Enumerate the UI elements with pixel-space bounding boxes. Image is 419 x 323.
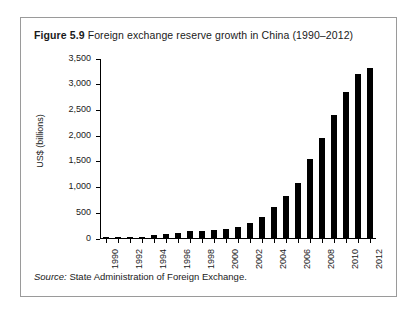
x-axis-tick xyxy=(298,239,299,243)
bar xyxy=(163,234,169,238)
x-axis-tick-label: 1990 xyxy=(110,249,120,269)
y-axis-tick: 2,000 xyxy=(96,136,100,137)
x-axis-tick-label: 2010 xyxy=(350,249,360,269)
y-axis-tick: 2,500 xyxy=(96,110,100,111)
bar xyxy=(259,217,265,238)
x-axis-tick xyxy=(262,239,263,243)
bar xyxy=(367,68,373,238)
y-axis-tick-label: 500 xyxy=(51,207,91,217)
x-axis-tick xyxy=(250,239,251,243)
x-axis-tick xyxy=(118,239,119,243)
bar xyxy=(115,237,121,238)
y-axis-tick-label: 0 xyxy=(51,233,91,243)
x-axis-tick xyxy=(370,239,371,243)
bar xyxy=(127,237,133,238)
x-axis-tick xyxy=(358,239,359,243)
x-axis-tick xyxy=(334,239,335,243)
x-axis-tick xyxy=(130,239,131,243)
y-axis-tick: 1,000 xyxy=(96,187,100,188)
y-axis-line xyxy=(100,59,101,239)
x-axis-tick-label: 2000 xyxy=(230,249,240,269)
bar xyxy=(187,231,193,238)
figure-title-text: Foreign exchange reserve growth in China… xyxy=(88,29,354,41)
x-axis-tick xyxy=(286,239,287,243)
x-axis-tick xyxy=(214,239,215,243)
bar xyxy=(139,237,145,238)
x-axis-tick xyxy=(178,239,179,243)
figure-caption: Figure 5.9 Foreign exchange reserve grow… xyxy=(34,29,353,41)
bar xyxy=(271,207,277,238)
x-axis-tick xyxy=(154,239,155,243)
y-axis-tick: 3,000 xyxy=(96,84,100,85)
bar xyxy=(283,196,289,238)
figure-number: Figure 5.9 xyxy=(34,29,85,41)
y-axis-tick-label: 3,000 xyxy=(51,78,91,88)
bar xyxy=(175,233,181,239)
bar xyxy=(319,138,325,238)
x-axis-tick-label: 2008 xyxy=(326,249,336,269)
bar xyxy=(295,183,301,238)
y-axis-tick-label: 2,000 xyxy=(51,130,91,140)
bar xyxy=(235,227,241,238)
y-axis-tick-label: 1,500 xyxy=(51,155,91,165)
y-axis-tick-label: 3,500 xyxy=(51,53,91,63)
bar xyxy=(223,229,229,238)
bar xyxy=(211,230,217,238)
y-axis-tick-label: 1,000 xyxy=(51,181,91,191)
bar xyxy=(247,223,253,238)
x-axis-tick xyxy=(226,239,227,243)
y-axis-tick: 500 xyxy=(96,213,100,214)
x-axis-tick-label: 1998 xyxy=(206,249,216,269)
y-axis-label: US$ (billions) xyxy=(35,96,45,186)
bar xyxy=(103,237,109,238)
x-axis-tick-label: 2004 xyxy=(278,249,288,269)
bar xyxy=(307,159,313,238)
x-axis-tick-label: 1994 xyxy=(158,249,168,269)
bar xyxy=(199,231,205,238)
x-axis-tick xyxy=(190,239,191,243)
x-axis-tick xyxy=(238,239,239,243)
x-axis-tick xyxy=(142,239,143,243)
y-axis-tick: 3,500 xyxy=(96,59,100,60)
x-axis-tick-label: 2006 xyxy=(302,249,312,269)
y-axis-tick: 0 xyxy=(96,239,100,240)
bar xyxy=(343,92,349,238)
x-axis-tick-label: 2012 xyxy=(374,249,384,269)
source-label: Source: xyxy=(34,271,67,282)
x-axis-tick xyxy=(166,239,167,243)
bar xyxy=(151,235,157,238)
x-axis-tick-label: 2002 xyxy=(254,249,264,269)
x-axis-tick xyxy=(346,239,347,243)
x-axis-tick xyxy=(202,239,203,243)
x-axis-tick-label: 1992 xyxy=(134,249,144,269)
source-note: Source: State Administration of Foreign … xyxy=(34,271,247,282)
source-text: State Administration of Foreign Exchange… xyxy=(69,271,246,282)
x-axis-tick-label: 1996 xyxy=(182,249,192,269)
x-axis-tick xyxy=(274,239,275,243)
y-axis-tick: 1,500 xyxy=(96,161,100,162)
x-axis-tick xyxy=(310,239,311,243)
figure-container: Figure 5.9 Foreign exchange reserve grow… xyxy=(20,17,397,297)
bar xyxy=(331,115,337,238)
x-axis-tick xyxy=(322,239,323,243)
chart-area: US$ (billions) 05001,0001,5002,0002,5003… xyxy=(21,48,396,273)
plot-region: 05001,0001,5002,0002,5003,0003,500199019… xyxy=(100,59,376,239)
bar xyxy=(355,74,361,238)
y-axis-tick-label: 2,500 xyxy=(51,104,91,114)
x-axis-tick xyxy=(106,239,107,243)
